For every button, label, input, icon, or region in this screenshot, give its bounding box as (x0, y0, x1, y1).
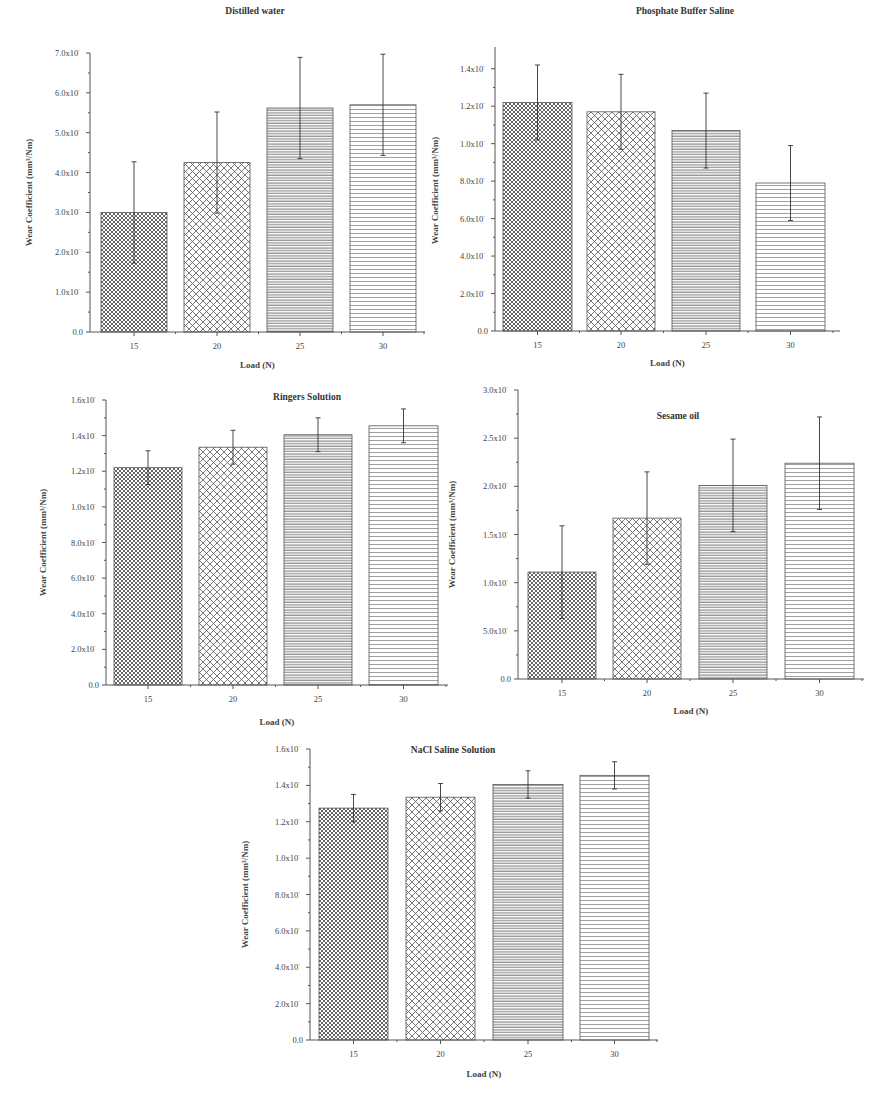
y-tick-label: 4.0x10- (71, 609, 96, 619)
y-tick-label: 0.0 (72, 327, 83, 337)
x-tick-label: 15 (130, 341, 139, 351)
x-tick-label: 20 (643, 688, 652, 698)
x-axis-title: Load (N) (674, 706, 709, 716)
chart-title: NaCl Saline Solution (411, 745, 496, 755)
x-tick-label: 25 (524, 1049, 533, 1059)
y-tick-label: 1.0x10- (483, 578, 508, 588)
x-tick-label: 20 (229, 694, 238, 704)
y-tick-label: 4.0x10- (275, 962, 300, 972)
x-axis-title: Load (N) (650, 358, 685, 368)
bar-15 (319, 808, 388, 1040)
y-tick-label: 1.6x10- (71, 395, 96, 405)
y-tick-label: 5.0x10- (483, 626, 508, 636)
y-tick-label: 2.0x10- (55, 247, 80, 257)
y-tick-label: 2.5x10- (483, 433, 508, 443)
y-axis-title: Wear Coefficient (mm³/Nm) (240, 841, 250, 949)
y-tick-label: 0.0 (88, 680, 99, 690)
y-tick-label: 4.0x10- (460, 251, 485, 261)
y-tick-label: 5.0x10- (55, 128, 80, 138)
x-tick-label: 25 (702, 340, 711, 350)
y-tick-label: 0.0 (477, 326, 488, 336)
y-tick-label: 4.0x10- (55, 168, 80, 178)
x-tick-label: 30 (610, 1049, 619, 1059)
y-tick-label: 3.0x10- (483, 385, 508, 395)
x-tick-label: 30 (786, 340, 795, 350)
y-axis-title: Wear Coefficient (mm³/Nm) (430, 137, 440, 245)
y-tick-label: 1.0x10- (55, 287, 80, 297)
chart-distilled-water: Distilled water0.01.0x10-2.0x10-3.0x10-4… (0, 0, 440, 375)
y-axis-title: Wear Coefficient (mm³/Nm) (447, 481, 457, 589)
y-tick-label: 3.0x10- (55, 207, 80, 217)
chart-phosphate-buffer-saline: Phosphate Buffer Saline0.02.0x10-4.0x10-… (430, 0, 889, 375)
y-tick-label: 1.2x10- (275, 817, 300, 827)
y-tick-label: 6.0x10- (460, 214, 485, 224)
y-tick-label: 6.0x10- (71, 573, 96, 583)
y-tick-label: 2.0x10- (460, 289, 485, 299)
x-tick-label: 15 (533, 340, 542, 350)
y-tick-label: 6.0x10- (275, 926, 300, 936)
x-tick-label: 25 (314, 694, 323, 704)
y-tick-label: 8.0x10- (460, 176, 485, 186)
y-tick-label: 1.4x10- (460, 64, 485, 74)
x-axis-title: Load (N) (260, 717, 295, 727)
bar-15 (114, 468, 182, 685)
bar-25 (493, 784, 563, 1040)
y-tick-label: 2.0x10- (275, 999, 300, 1009)
x-tick-label: 15 (349, 1049, 358, 1059)
bar-30 (369, 426, 438, 685)
chart-ringers-solution: Ringers Solution0.02.0x10-4.0x10-6.0x10-… (0, 375, 450, 740)
y-tick-label: 1.0x10- (71, 502, 96, 512)
x-tick-label: 20 (213, 341, 222, 351)
bar-20 (199, 447, 267, 685)
x-tick-label: 25 (296, 341, 305, 351)
x-tick-label: 30 (399, 694, 408, 704)
x-tick-label: 20 (617, 340, 626, 350)
chart-title: Distilled water (225, 6, 285, 16)
y-tick-label: 1.4x10- (71, 431, 96, 441)
bar-30 (580, 775, 649, 1040)
y-tick-label: 6.0x10- (55, 88, 80, 98)
y-tick-label: 1.4x10- (275, 780, 300, 790)
y-tick-label: 8.0x10- (71, 538, 96, 548)
bar-25 (284, 435, 352, 685)
x-tick-label: 30 (379, 341, 388, 351)
y-tick-label: 1.5x10- (483, 530, 508, 540)
x-tick-label: 25 (729, 688, 738, 698)
x-tick-label: 15 (144, 694, 153, 704)
bar-20 (406, 797, 475, 1040)
y-tick-label: 1.0x10- (460, 139, 485, 149)
y-tick-label: 1.0x10- (275, 853, 300, 863)
y-tick-label: 0.0 (292, 1035, 303, 1045)
y-tick-label: 0.0 (500, 674, 511, 684)
x-tick-label: 15 (558, 688, 567, 698)
chart-sesame-oil: Sesame oil0.05.0x10-1.0x10-1.5x10-2.0x10… (440, 375, 889, 740)
x-tick-label: 30 (815, 688, 824, 698)
y-axis-title: Wear Coefficient (mm³/Nm) (24, 139, 34, 247)
y-tick-label: 1.2x10- (71, 466, 96, 476)
chart-nacl-saline-solution: NaCl Saline Solution0.02.0x10-4.0x10-6.0… (230, 735, 689, 1113)
chart-title: Sesame oil (657, 411, 700, 421)
y-tick-label: 2.0x10- (483, 481, 508, 491)
chart-title: Phosphate Buffer Saline (636, 6, 734, 16)
y-tick-label: 7.0x10- (55, 48, 80, 58)
y-tick-label: 1.6x10- (275, 744, 300, 754)
y-tick-label: 8.0x10- (275, 890, 300, 900)
y-tick-label: 2.0x10- (71, 644, 96, 654)
y-axis-title: Wear Coefficient (mm³/Nm) (38, 489, 48, 597)
x-axis-title: Load (N) (240, 360, 275, 370)
y-tick-label: 1.2x10- (460, 101, 485, 111)
chart-title: Ringers Solution (273, 392, 342, 402)
x-tick-label: 20 (436, 1049, 445, 1059)
x-axis-title: Load (N) (467, 1069, 502, 1079)
